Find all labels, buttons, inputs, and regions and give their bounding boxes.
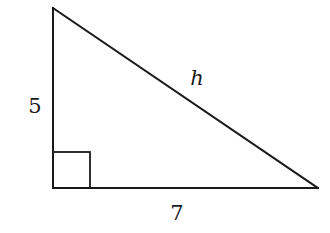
horizontal-leg-label: 7 (170, 201, 183, 225)
hypotenuse-label: h (190, 66, 204, 90)
right-triangle-diagram: 5 7 h (0, 0, 330, 233)
right-angle-marker-icon (53, 152, 90, 188)
hypotenuse (53, 8, 318, 188)
vertical-leg-label: 5 (28, 94, 41, 118)
